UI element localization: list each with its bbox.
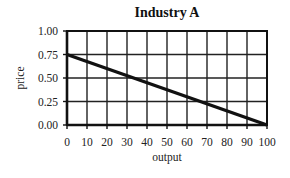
x-tick-label: 100 (258, 136, 276, 148)
x-tick-label: 30 (121, 136, 133, 148)
x-tick-label: 0 (64, 136, 70, 148)
y-axis-label: price (14, 67, 27, 90)
grid (67, 31, 267, 125)
x-tick-label: 90 (241, 136, 253, 148)
chart: Industry A 0.000.250.500.751.00 01020304… (0, 0, 290, 178)
y-tick-label: 0.00 (38, 119, 58, 131)
chart-title: Industry A (135, 5, 201, 20)
x-axis-label: output (152, 151, 182, 164)
x-tick-label: 20 (101, 136, 113, 148)
y-axis-ticks: 0.000.250.500.751.00 (38, 25, 67, 131)
y-tick-label: 0.75 (38, 49, 58, 61)
y-tick-label: 1.00 (38, 25, 58, 37)
y-tick-label: 0.50 (38, 72, 58, 84)
x-tick-label: 40 (141, 136, 153, 148)
x-tick-label: 50 (161, 136, 173, 148)
x-tick-label: 70 (201, 136, 213, 148)
x-tick-label: 80 (221, 136, 233, 148)
x-axis-ticks: 0102030405060708090100 (64, 125, 276, 148)
y-tick-label: 0.25 (38, 96, 58, 108)
x-tick-label: 60 (181, 136, 193, 148)
x-tick-label: 10 (81, 136, 93, 148)
